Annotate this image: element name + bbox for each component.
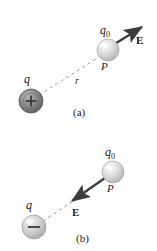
- test-charge-sphere-b: [102, 161, 124, 183]
- distance-line-a: [39, 57, 99, 95]
- sphere-highlight: [26, 219, 34, 225]
- point-label-b: P: [107, 183, 114, 194]
- panel-caption-a: (a): [73, 107, 85, 118]
- field-label-a: E: [136, 35, 143, 46]
- source-charge-label-a: q: [24, 73, 30, 85]
- panel-a: q0 E P r q (a): [0, 0, 157, 125]
- distance-label-a: r: [75, 76, 79, 86]
- distance-line-b: [43, 202, 72, 221]
- point-label-a: P: [101, 61, 108, 72]
- test-charge-label-a: q0: [100, 24, 110, 40]
- field-arrow-b: [72, 178, 105, 201]
- source-charge-label-b: q: [26, 199, 32, 211]
- panel-caption-b: (b): [76, 233, 89, 244]
- figure-root: q0 E P r q (a): [0, 0, 157, 251]
- panel-b: q0 P E q (b): [0, 125, 157, 251]
- sphere-highlight: [100, 43, 107, 48]
- test-charge-sphere-a: [97, 39, 119, 61]
- field-label-b: E: [72, 207, 79, 218]
- test-charge-label-b: q0: [105, 146, 115, 162]
- sphere-highlight: [105, 165, 112, 170]
